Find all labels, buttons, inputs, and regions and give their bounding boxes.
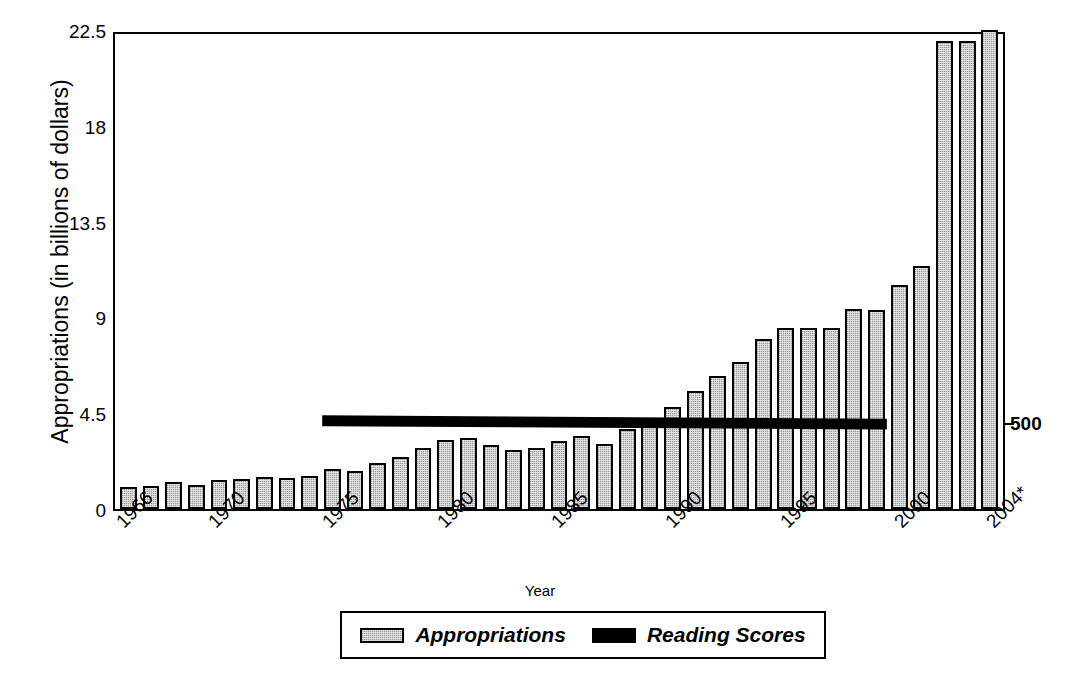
legend-label-reading-scores: Reading Scores (647, 623, 806, 647)
bar-slot[interactable] (570, 34, 593, 509)
bar-slot[interactable] (548, 34, 571, 509)
bar-1983[interactable] (505, 450, 522, 509)
bar-slot[interactable] (253, 34, 276, 509)
bar-1996[interactable] (800, 328, 817, 509)
bar-slot[interactable] (457, 34, 480, 509)
plot-area (113, 32, 1005, 511)
bar-slot[interactable] (412, 34, 435, 509)
bar-slot[interactable] (933, 34, 956, 509)
bar-slot[interactable] (434, 34, 457, 509)
bar-1982[interactable] (483, 445, 500, 509)
bar-2000[interactable] (891, 285, 908, 509)
bar-slot[interactable] (684, 34, 707, 509)
right-axis-tick-label: 500 (1010, 413, 1042, 435)
bar-slot[interactable] (298, 34, 321, 509)
bar-slot[interactable] (797, 34, 820, 509)
bar-series-appropriations (115, 34, 1003, 509)
bar-1974[interactable] (301, 476, 318, 509)
bar-slot[interactable] (480, 34, 503, 509)
bar-1999[interactable] (868, 310, 885, 509)
legend-label-appropriations: Appropriations (415, 623, 566, 647)
bar-1997[interactable] (823, 328, 840, 509)
y-tick-label: 4.5 (80, 404, 106, 426)
bar-slot[interactable] (276, 34, 299, 509)
bar-1968[interactable] (165, 482, 182, 509)
legend-item-reading-scores: Reading Scores (592, 623, 806, 647)
bar-slot[interactable] (820, 34, 843, 509)
bar-1998[interactable] (845, 309, 862, 509)
x-axis-ticks: 196619701975198019851990199520002004* (113, 511, 1005, 591)
bar-1995[interactable] (777, 328, 794, 509)
bar-slot[interactable] (117, 34, 140, 509)
bar-slot[interactable] (344, 34, 367, 509)
bar-2002[interactable] (936, 41, 953, 509)
bar-slot[interactable] (162, 34, 185, 509)
bar-slot[interactable] (729, 34, 752, 509)
bar-slot[interactable] (230, 34, 253, 509)
bar-slot[interactable] (774, 34, 797, 509)
bar-slot[interactable] (638, 34, 661, 509)
bar-1987[interactable] (596, 444, 613, 509)
bar-slot[interactable] (525, 34, 548, 509)
bar-1989[interactable] (641, 424, 658, 509)
bar-slot[interactable] (979, 34, 1002, 509)
bar-slot[interactable] (366, 34, 389, 509)
bar-slot[interactable] (208, 34, 231, 509)
bar-2003[interactable] (959, 41, 976, 509)
bar-1988[interactable] (619, 429, 636, 509)
y-tick-label: 13.5 (69, 213, 106, 235)
y-tick-label: 9 (95, 308, 106, 330)
bar-slot[interactable] (389, 34, 412, 509)
bar-1984[interactable] (528, 448, 545, 509)
bar-1969[interactable] (188, 485, 205, 509)
bar-1978[interactable] (392, 457, 409, 509)
chart-canvas: Appropriations (in billions of dollars) … (0, 0, 1080, 689)
bar-1977[interactable] (369, 463, 386, 509)
bar-1979[interactable] (415, 448, 432, 509)
y-tick-label: 0 (95, 500, 106, 522)
bar-2001[interactable] (913, 266, 930, 509)
bar-1994[interactable] (755, 339, 772, 509)
bar-slot[interactable] (616, 34, 639, 509)
x-axis-title: Year (0, 582, 1080, 599)
bar-1990[interactable] (664, 407, 681, 509)
bar-slot[interactable] (140, 34, 163, 509)
bar-swatch-icon (360, 628, 404, 643)
bar-slot[interactable] (185, 34, 208, 509)
bar-1993[interactable] (732, 362, 749, 509)
bar-1972[interactable] (256, 477, 273, 509)
bar-slot[interactable] (752, 34, 775, 509)
bar-slot[interactable] (956, 34, 979, 509)
bar-slot[interactable] (843, 34, 866, 509)
bar-slot[interactable] (661, 34, 684, 509)
bar-slot[interactable] (888, 34, 911, 509)
legend-item-appropriations: Appropriations (360, 623, 566, 647)
bar-slot[interactable] (706, 34, 729, 509)
bar-slot[interactable] (502, 34, 525, 509)
y-tick-label: 18 (85, 117, 106, 139)
bar-slot[interactable] (593, 34, 616, 509)
bar-slot[interactable] (321, 34, 344, 509)
bar-2004star[interactable] (981, 30, 998, 509)
chart-legend: Appropriations Reading Scores (340, 611, 826, 659)
bar-1992[interactable] (709, 376, 726, 509)
y-tick-label: 22.5 (69, 21, 106, 43)
bar-1973[interactable] (279, 478, 296, 509)
bar-slot[interactable] (911, 34, 934, 509)
bar-slot[interactable] (865, 34, 888, 509)
line-swatch-icon (592, 628, 636, 643)
